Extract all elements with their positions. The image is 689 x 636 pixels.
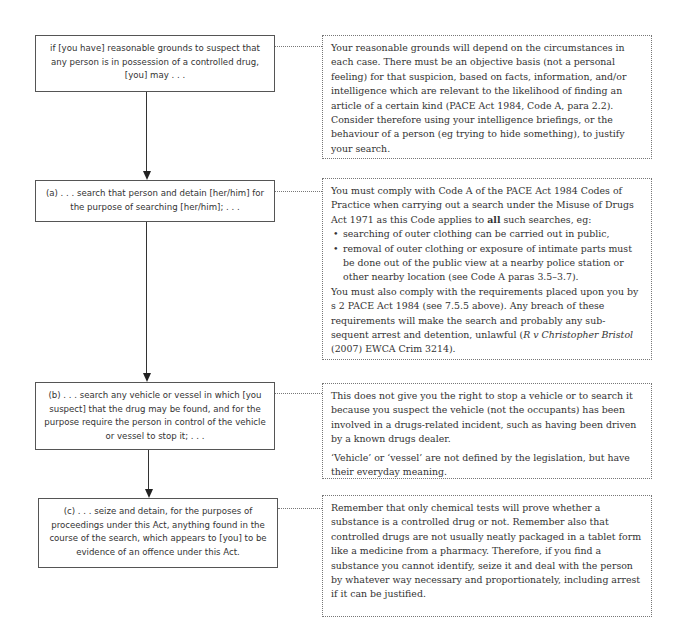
flow-step-c-text: (c) . . . seize and detain, for the purp… bbox=[49, 506, 266, 557]
note-code-a-intro: You must comply with Code A of the PACE … bbox=[331, 184, 643, 227]
flow-step-intro-text: if [you have] reasonable grounds to susp… bbox=[50, 43, 260, 80]
arrow-down-icon bbox=[143, 171, 151, 180]
flow-arrow-line-3 bbox=[148, 450, 149, 490]
note-code-a-outro: You must also comply with the requiremen… bbox=[331, 285, 643, 357]
flow-step-c: (c) . . . seize and detain, for the purp… bbox=[38, 498, 278, 568]
note-chemical-tests-text: Remember that only chemical tests will p… bbox=[331, 501, 643, 602]
note-code-a-bullets: searching of outer clothing can be carri… bbox=[331, 227, 643, 285]
note-reasonable-grounds-text: Your reasonable grounds will depend on t… bbox=[331, 41, 643, 156]
note-reasonable-grounds: Your reasonable grounds will depend on t… bbox=[322, 35, 652, 159]
connector-b bbox=[275, 393, 322, 394]
note-vehicle-text-2: ‘Vehicle’ or ‘vessel’ are not defined by… bbox=[331, 451, 643, 480]
connector-c bbox=[278, 508, 322, 509]
flow-step-b: (b) . . . search any vehicle or vessel i… bbox=[35, 382, 275, 450]
flow-step-a: (a) . . . search that person and detain … bbox=[35, 180, 275, 222]
note-vehicle: This does not give you the right to stop… bbox=[322, 383, 652, 479]
connector-intro bbox=[275, 46, 322, 47]
case-citation: R v Christopher Bristol bbox=[523, 329, 633, 340]
bullet-item: searching of outer clothing can be carri… bbox=[331, 227, 643, 241]
connector-a bbox=[275, 191, 322, 192]
bullet-item: removal of outer clothing or exposure of… bbox=[331, 242, 643, 285]
arrow-down-icon bbox=[143, 373, 151, 382]
flow-step-a-text: (a) . . . search that person and detain … bbox=[46, 188, 264, 212]
flow-arrow-line-2 bbox=[146, 222, 147, 374]
flow-arrow-line-1 bbox=[146, 92, 147, 172]
flow-step-intro: if [you have] reasonable grounds to susp… bbox=[35, 35, 275, 92]
note-chemical-tests: Remember that only chemical tests will p… bbox=[322, 495, 652, 617]
note-vehicle-text-1: This does not give you the right to stop… bbox=[331, 389, 643, 447]
flow-step-b-text: (b) . . . search any vehicle or vessel i… bbox=[44, 390, 266, 441]
arrow-down-icon bbox=[145, 489, 153, 498]
note-code-a: You must comply with Code A of the PACE … bbox=[322, 178, 652, 360]
